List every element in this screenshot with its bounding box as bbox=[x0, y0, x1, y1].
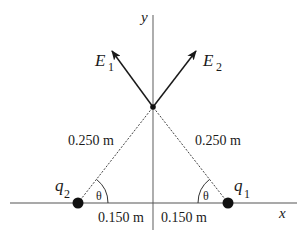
q2-subscript: 2 bbox=[64, 187, 70, 201]
e2-vector-arrow bbox=[153, 51, 196, 107]
e2-label: E bbox=[202, 51, 214, 70]
e2-subscript: 2 bbox=[216, 60, 222, 74]
right-hypotenuse-label: 0.250 m bbox=[195, 133, 241, 148]
charge-q1 bbox=[223, 198, 234, 209]
q1-label: q bbox=[234, 176, 243, 195]
q2-label: q bbox=[55, 176, 64, 195]
line-q1-to-point bbox=[153, 107, 228, 203]
e1-vector-arrow bbox=[112, 51, 153, 107]
e1-label: E bbox=[94, 51, 106, 70]
left-hypotenuse-label: 0.250 m bbox=[68, 133, 114, 148]
electric-field-diagram: y x E 1 E 2 0.250 m 0.250 m q 2 q 1 θ θ … bbox=[0, 0, 305, 237]
charge-q2 bbox=[73, 198, 84, 209]
field-point bbox=[150, 104, 156, 110]
e1-subscript: 1 bbox=[108, 60, 114, 74]
angle-left-label: θ bbox=[96, 189, 102, 203]
q1-subscript: 1 bbox=[244, 187, 250, 201]
right-base-label: 0.150 m bbox=[161, 210, 207, 225]
y-axis-label: y bbox=[139, 9, 148, 25]
left-base-label: 0.150 m bbox=[98, 210, 144, 225]
x-axis-label: x bbox=[278, 205, 286, 221]
line-q2-to-point bbox=[78, 107, 153, 203]
angle-right-label: θ bbox=[203, 189, 209, 203]
